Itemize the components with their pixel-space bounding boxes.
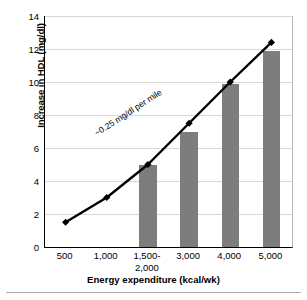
line-series-overlay <box>45 16 292 247</box>
y-tick-label: 0 <box>20 242 39 253</box>
y-tick-label: 12 <box>20 44 39 55</box>
x-tick-label: 3,000 <box>176 250 200 262</box>
x-axis-title: Energy expenditure (kcal/wk) <box>0 274 307 285</box>
x-tick-label: 4,000 <box>217 250 241 262</box>
footer-rule <box>6 292 301 293</box>
plot-area: ~0.25 mg/dl per mile <box>44 16 293 248</box>
x-tick-label: 1,500- 2,000 <box>133 250 160 273</box>
y-tick-label: 4 <box>20 176 39 187</box>
y-axis-tick-labels: 02468101214 <box>20 0 39 300</box>
y-tick-label: 14 <box>20 11 39 22</box>
y-tick-label: 2 <box>20 209 39 220</box>
chart-figure: Increase in HDL (mg/dl) 02468101214 ~0.2… <box>0 0 307 300</box>
x-tick-label: 5,000 <box>259 250 283 262</box>
y-tick-label: 8 <box>20 110 39 121</box>
y-tick-label: 10 <box>20 77 39 88</box>
x-tick-label: 1,000 <box>94 250 118 262</box>
y-tick-label: 6 <box>20 143 39 154</box>
x-tick-label: 500 <box>57 250 73 262</box>
